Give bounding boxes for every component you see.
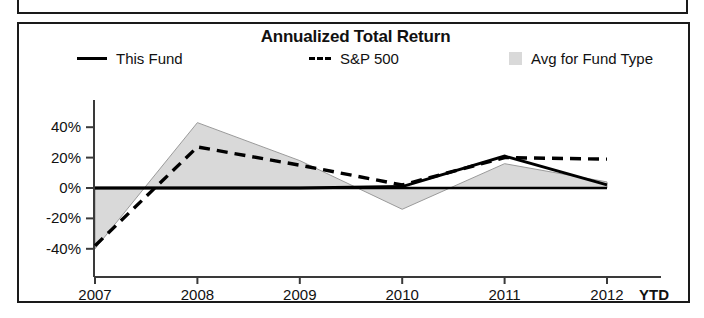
solid-line-swatch-icon [77, 57, 107, 60]
legend-label-avg-for-fund-type: Avg for Fund Type [531, 50, 653, 67]
chart-panel: Annualized Total Return This Fund S&P 50… [17, 22, 690, 303]
y-axis-tick-label: 20% [19, 149, 81, 166]
legend-label-sp500: S&P 500 [340, 50, 399, 67]
x-axis-tick-label: 2007 [60, 286, 130, 303]
plot-area [19, 76, 692, 304]
chart-legend: This Fund S&P 500 Avg for Fund Type [19, 50, 692, 70]
y-axis-tick-label: -40% [19, 240, 81, 257]
x-axis-tick-label: 2008 [162, 286, 232, 303]
adjacent-panel-bottom-edge [17, 0, 688, 14]
annualized-total-return-chart-figure: Annualized Total Return This Fund S&P 50… [0, 0, 704, 318]
chart-title: Annualized Total Return [19, 27, 692, 47]
legend-item-this-fund: This Fund [77, 50, 183, 67]
x-axis-ytd-label: YTD [639, 286, 669, 303]
legend-item-avg-for-fund-type: Avg for Fund Type [509, 50, 653, 67]
dashed-line-swatch-icon [309, 57, 331, 60]
y-axis-tick-label: 40% [19, 118, 81, 135]
legend-item-sp500: S&P 500 [309, 50, 399, 67]
x-axis-tick-label: 2010 [367, 286, 437, 303]
y-axis-tick-label: -20% [19, 209, 81, 226]
x-axis-tick-label: 2009 [265, 286, 335, 303]
y-axis-tick-label: 0% [19, 179, 81, 196]
x-axis-tick-label: 2012 [572, 286, 642, 303]
gray-area-swatch-icon [509, 52, 522, 65]
x-axis-tick-label: 2011 [470, 286, 540, 303]
plot-svg [19, 76, 692, 304]
legend-label-this-fund: This Fund [116, 50, 183, 67]
